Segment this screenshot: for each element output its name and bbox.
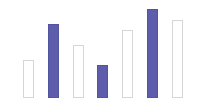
plot-area: [0, 0, 208, 109]
bar-2: [48, 24, 59, 98]
bar-6: [147, 9, 158, 98]
bar-4: [97, 65, 108, 98]
bar-7: [172, 20, 183, 98]
bar-chart: [0, 0, 208, 109]
bar-5: [122, 30, 133, 98]
bar-1: [23, 60, 34, 98]
bar-3: [73, 45, 84, 98]
